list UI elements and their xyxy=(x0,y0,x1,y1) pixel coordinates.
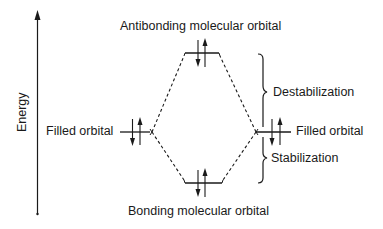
correlation-lines xyxy=(152,56,256,180)
destabilization-brace xyxy=(258,54,267,127)
energy-braces xyxy=(258,54,267,183)
antibonding-label: Antibonding molecular orbital xyxy=(120,20,281,33)
bonding-orbital xyxy=(184,168,223,197)
spin-down-arrowhead xyxy=(270,138,275,146)
mo-diagram xyxy=(0,0,383,229)
spin-up-arrowhead xyxy=(203,168,208,176)
spin-up-arrowhead xyxy=(138,117,143,125)
bonding-label: Bonding molecular orbital xyxy=(128,205,269,218)
stabilization-brace xyxy=(258,137,267,183)
destabilization-label: Destabilization xyxy=(273,86,354,99)
spin-down-arrowhead xyxy=(196,189,201,197)
left-filled-orbital-label: Filled orbital xyxy=(46,125,113,138)
energy-axis xyxy=(35,10,41,215)
stabilization-label: Stabilization xyxy=(271,152,338,165)
right-filled-orbital xyxy=(256,117,291,146)
antibonding-orbital xyxy=(184,38,220,67)
right-filled-orbital-label: Filled orbital xyxy=(296,125,363,138)
spin-up-arrowhead xyxy=(278,117,283,125)
spin-down-arrowhead xyxy=(130,138,135,146)
spin-up-arrowhead xyxy=(203,38,208,46)
energy-axis-label: Energy xyxy=(16,92,29,132)
left-filled-orbital xyxy=(120,117,152,146)
spin-down-arrowhead xyxy=(196,59,201,67)
